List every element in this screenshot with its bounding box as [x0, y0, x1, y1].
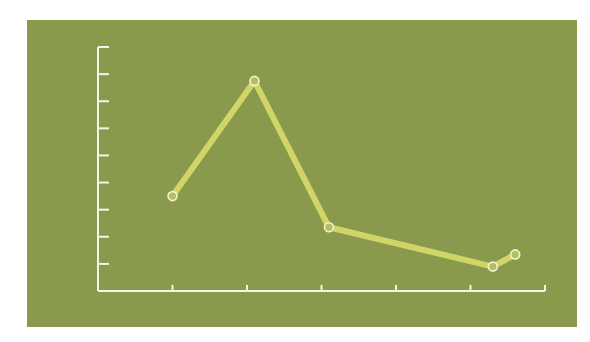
data-point — [250, 76, 259, 85]
line-chart — [0, 0, 590, 342]
series-line — [173, 81, 516, 267]
data-point — [488, 262, 497, 271]
axes — [98, 47, 545, 291]
series-layer — [168, 76, 520, 271]
data-point — [511, 250, 520, 259]
data-point — [324, 223, 333, 232]
data-point — [168, 192, 177, 201]
